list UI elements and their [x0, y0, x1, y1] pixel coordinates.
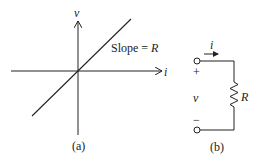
resistance-line	[32, 19, 131, 116]
slope-label: Slope = R	[111, 41, 159, 55]
plus-sign: +	[193, 65, 200, 79]
caption-b: (b)	[210, 140, 224, 154]
x-axis-label: i	[164, 65, 167, 79]
resistor-label: R	[240, 90, 249, 104]
figure-a-vi-graph: v i Slope = R (a)	[11, 6, 167, 153]
current-label: i	[210, 38, 213, 52]
top-terminal	[194, 58, 200, 64]
voltage-label: v	[193, 91, 199, 105]
bottom-terminal	[194, 127, 200, 133]
diagram-canvas: v i Slope = R (a) i + v − R (b)	[0, 0, 261, 161]
minus-sign: −	[193, 113, 200, 127]
circuit-wire	[200, 61, 238, 130]
y-axis-label: v	[74, 6, 80, 20]
figure-b-resistor-circuit: i + v − R (b)	[193, 38, 249, 154]
caption-a: (a)	[72, 139, 85, 153]
